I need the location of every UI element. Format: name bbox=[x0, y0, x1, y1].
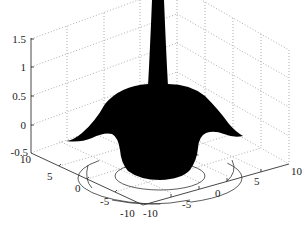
y-tick-label: 10 bbox=[20, 153, 32, 165]
y-tick-label: 0 bbox=[75, 182, 81, 194]
x-tick-label: 10 bbox=[291, 165, 303, 177]
surface bbox=[66, 0, 243, 180]
x-tick-label: -10 bbox=[143, 207, 158, 219]
z-tick-labels: 1.5 1 0.5 0 -0.5 bbox=[11, 33, 29, 158]
z-tick-label: 1.5 bbox=[12, 33, 26, 45]
x-tick-label: 0 bbox=[215, 187, 221, 199]
y-tick-label: -5 bbox=[100, 195, 110, 207]
y-tick-label: -10 bbox=[120, 207, 135, 219]
x-tick-label: -5 bbox=[182, 198, 192, 210]
surface-plot: 1.5 1 0.5 0 -0.5 10 5 0 -5 -10 -10 -5 0 … bbox=[0, 0, 304, 225]
y-tick-label: 5 bbox=[47, 170, 53, 182]
y-tick-labels: 10 5 0 -5 -10 bbox=[20, 153, 135, 219]
x-tick-label: 5 bbox=[254, 175, 260, 187]
z-tick-label: 0.5 bbox=[12, 90, 26, 102]
z-tick-label: 0 bbox=[21, 119, 27, 131]
z-tick-label: 1 bbox=[21, 61, 27, 73]
